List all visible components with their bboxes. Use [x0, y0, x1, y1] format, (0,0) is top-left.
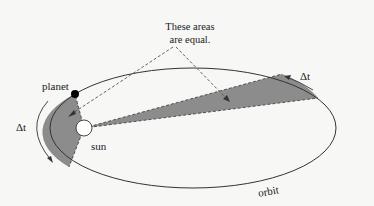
delta-t-label-left: Δt — [16, 121, 26, 133]
equal-areas-annotation: These areas are equal. — [150, 20, 230, 46]
annotation-line-1: These areas — [150, 20, 230, 33]
planet-icon — [71, 90, 79, 98]
delta-t-label-right: Δt — [300, 70, 310, 82]
annotation-line-2: are equal. — [150, 33, 230, 46]
shaded-area-far-from-sun — [84, 74, 318, 128]
sun-label: sun — [91, 140, 106, 152]
sun-icon — [76, 120, 92, 136]
arrowhead-icon — [47, 156, 53, 163]
planet-label: planet — [42, 80, 69, 92]
kepler-diagram: These areas are equal. planet sun orbit … — [0, 0, 374, 206]
